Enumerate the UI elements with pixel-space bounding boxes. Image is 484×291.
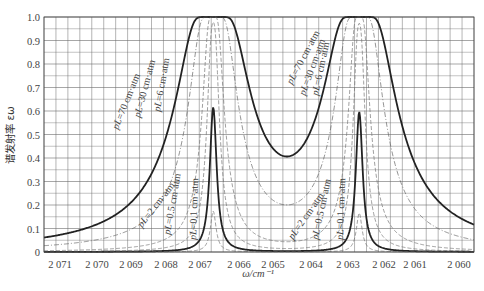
grid-lines [44, 17, 474, 252]
curve-label: pL=0.1 cm·atm [187, 178, 200, 241]
curve-label: pL=0.5 cm·atm [161, 172, 183, 236]
y-tick-label: 0 [35, 247, 40, 258]
y-tick-label: 0.3 [27, 177, 40, 188]
y-tick-label: 0.4 [27, 153, 41, 164]
x-tick-label: 2 064 [299, 259, 323, 270]
curve-labels: pL=70 cm·atmpL=30 cm·atmpL=6 cm·atmpL=2 … [109, 28, 347, 242]
y-tick-label: 0.1 [27, 224, 40, 235]
curve-label: pL=0.1 cm·atm [334, 178, 347, 241]
y-tick-label: 1.0 [27, 12, 40, 23]
x-tick-label: 2 062 [372, 259, 396, 270]
x-tick-label: 2 068 [154, 259, 178, 270]
y-tick-label: 0.6 [27, 106, 40, 117]
x-tick-label: 2 063 [336, 259, 360, 270]
y-tick-label: 0.9 [27, 36, 40, 47]
x-tick-label: 2 060 [447, 259, 471, 270]
y-tick-label: 0.5 [27, 130, 40, 141]
x-tick-label: 2 071 [48, 259, 72, 270]
emissivity-chart: 00.10.20.30.40.50.60.70.80.91.0 2 0712 0… [0, 0, 484, 291]
x-tick-label: 2 069 [119, 259, 143, 270]
x-axis-label: ω/cm⁻¹ [242, 268, 274, 279]
x-tick-label: 2 067 [188, 259, 212, 270]
x-tick-label: 2 070 [85, 259, 109, 270]
y-axis-ticks: 00.10.20.30.40.50.60.70.80.91.0 [27, 12, 41, 258]
y-tick-label: 0.7 [27, 83, 40, 94]
y-axis-label: 谱发射率 εω [4, 106, 16, 164]
y-tick-label: 0.2 [27, 200, 40, 211]
x-tick-label: 2 061 [403, 259, 427, 270]
y-tick-label: 0.8 [27, 59, 40, 70]
